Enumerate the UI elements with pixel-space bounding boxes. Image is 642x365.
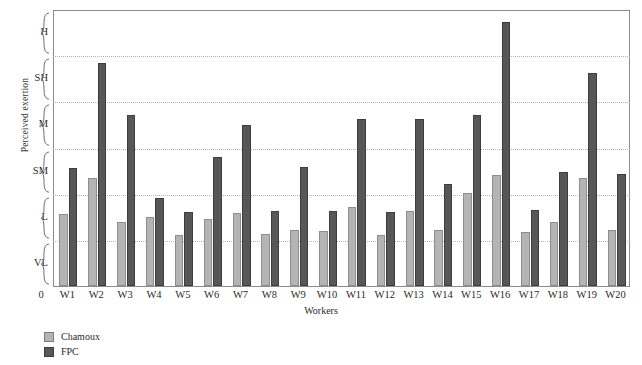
bar-w15-chamoux [463,193,472,286]
bar-w1-fpc [69,168,78,286]
y-axis-brace-sm [40,151,51,193]
x-axis-tick-w10: W10 [317,289,337,300]
perceived-exertion-bar-chart: Perceived exertion VLLSMMSHH 0W1W2W3W4W5… [0,0,642,365]
bar-w14-fpc [444,184,453,286]
bar-w19-chamoux [579,178,588,286]
bar-w17-fpc [531,210,540,286]
y-axis-brace-m [40,104,51,146]
x-axis-tick-w11: W11 [346,289,366,300]
x-axis-tick-labels: 0W1W2W3W4W5W6W7W8W9W10W11W12W13W14W15W16… [0,289,642,303]
y-axis-brace-vl [40,243,51,285]
gridline [53,195,630,196]
bar-w8-fpc [271,211,280,286]
x-axis-tick-w18: W18 [548,289,568,300]
bar-w17-chamoux [521,232,530,286]
bar-w2-fpc [98,63,107,286]
bar-w20-fpc [617,174,626,286]
x-axis-tick-w3: W3 [118,289,133,300]
bar-w4-fpc [155,198,164,286]
bar-w11-fpc [357,119,366,286]
bar-w5-fpc [184,212,193,286]
bar-w12-chamoux [377,235,386,286]
x-axis-tick-w7: W7 [233,289,248,300]
bar-w1-chamoux [59,214,68,286]
bar-w20-chamoux [608,230,617,286]
legend-label-fpc: FPC [61,346,79,357]
bar-w10-fpc [329,211,338,286]
bar-w3-fpc [127,115,136,286]
bar-w18-fpc [559,172,568,286]
bar-w11-chamoux [348,207,357,286]
x-axis-tick-w17: W17 [519,289,539,300]
bar-w6-chamoux [204,219,213,286]
legend-label-chamoux: Chamoux [61,331,100,342]
x-axis-tick-w6: W6 [204,289,219,300]
gridline [53,102,630,103]
bar-w15-fpc [473,115,482,286]
x-axis-tick-w13: W13 [403,289,423,300]
bar-w7-chamoux [233,213,242,286]
bar-w7-fpc [242,125,251,286]
gridline [53,241,630,242]
gridline [53,56,630,57]
bar-w8-chamoux [261,234,270,286]
legend-item-fpc: FPC [44,345,100,358]
x-axis-tick-w4: W4 [146,289,161,300]
y-axis-brace-h [40,12,51,54]
x-axis-tick-w16: W16 [490,289,510,300]
bar-w2-chamoux [88,178,97,286]
bar-w6-fpc [213,157,222,286]
legend-swatch-icon-chamoux [44,332,54,342]
bar-w12-fpc [386,212,395,286]
bar-w5-chamoux [175,235,184,286]
x-axis-tick-w5: W5 [175,289,190,300]
bar-w3-chamoux [117,222,126,286]
legend: Chamoux FPC [44,330,100,360]
x-axis-tick-w14: W14 [432,289,452,300]
x-axis-tick-w19: W19 [577,289,597,300]
bar-w16-chamoux [492,175,501,286]
x-axis-tick-w15: W15 [461,289,481,300]
x-axis-tick-w1: W1 [60,289,75,300]
legend-swatch-icon-fpc [44,347,54,357]
x-axis-tick-w12: W12 [375,289,395,300]
x-axis-tick-w2: W2 [89,289,104,300]
y-axis-brace-sh [40,58,51,100]
bar-w19-fpc [588,73,597,286]
bar-w9-fpc [300,167,309,286]
bar-w10-chamoux [319,231,328,286]
y-axis-brace-l [40,197,51,239]
x-axis-origin-label: 0 [38,289,43,300]
legend-item-chamoux: Chamoux [44,330,100,343]
x-axis-tick-w8: W8 [262,289,277,300]
bar-w4-chamoux [146,217,155,286]
bar-w9-chamoux [290,230,299,286]
x-axis-title: Workers [0,305,642,316]
bar-w16-fpc [502,22,511,286]
bar-w13-fpc [415,119,424,286]
bar-w13-chamoux [406,211,415,286]
bar-w18-chamoux [550,222,559,286]
bar-w14-chamoux [434,230,443,286]
x-axis-tick-w20: W20 [605,289,625,300]
gridline [53,149,630,150]
x-axis-tick-w9: W9 [291,289,306,300]
